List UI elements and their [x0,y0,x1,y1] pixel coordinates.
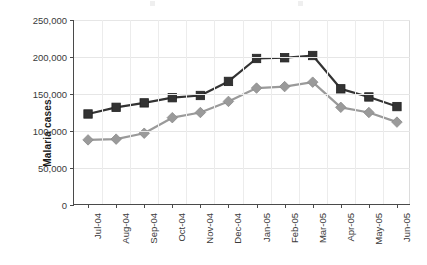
y-axis-tick [70,20,74,21]
gridline-vertical [214,20,215,204]
x-axis-tick [116,204,117,208]
data-point-marker [279,81,290,92]
y-axis-tick [70,94,74,95]
gridline-vertical [383,20,384,204]
x-axis-tick-label: Dec-04 [232,213,243,244]
x-axis-tick [257,204,258,208]
x-axis-tick-label: Apr-05 [345,213,356,242]
x-axis-tick-label: Jun-05 [401,213,412,242]
data-point-marker [251,83,262,94]
y-axis-tick [70,57,74,58]
x-axis-tick [369,204,370,208]
x-axis-tick-label: Aug-04 [120,213,131,244]
y-axis-tick-label: 250,000 [33,15,67,26]
y-axis-tick-label: 200,000 [33,52,67,63]
legend-marker-2 [298,1,303,6]
legend-marker-1 [150,1,155,6]
x-axis-tick-label: Mar-05 [317,213,328,243]
y-axis-tick [70,168,74,169]
x-axis-tick-label: Sep-04 [148,213,159,244]
x-axis-tick-label: Feb-05 [289,213,300,243]
x-axis-tick-label: Oct-04 [176,213,187,242]
data-point-marker [337,85,345,93]
gridline-vertical [130,20,131,204]
gridline-vertical [271,20,272,204]
data-point-marker [392,117,403,128]
y-axis-tick [70,205,74,206]
gridline-vertical [158,20,159,204]
x-axis-tick [285,204,286,208]
data-point-marker [309,51,317,59]
x-axis-tick-label: Jan-05 [261,213,272,242]
x-axis-tick [200,204,201,208]
x-axis-tick-label: May-05 [373,213,384,245]
data-point-marker [223,96,234,107]
x-axis-tick [228,204,229,208]
y-axis-tick-label: 100,000 [33,126,67,137]
gridline-vertical [299,20,300,204]
data-point-marker [83,135,94,146]
data-point-marker [393,102,401,110]
data-point-marker [167,112,178,123]
x-axis-tick [88,204,89,208]
gridline-vertical [355,20,356,204]
gridline-vertical [243,20,244,204]
gridline-vertical [102,20,103,204]
cropped-legend-strip [150,0,340,7]
x-axis-tick [172,204,173,208]
y-axis-tick-label: 0 [62,200,67,211]
x-axis-tick [313,204,314,208]
data-point-marker [140,99,148,107]
x-axis-tick [341,204,342,208]
data-point-marker [364,107,375,118]
data-point-marker [84,110,92,118]
gridline-vertical [327,20,328,204]
x-axis-tick-label: Nov-04 [204,213,215,244]
gridline-vertical [186,20,187,204]
x-axis-tick-label: Jul-04 [92,213,103,239]
x-axis-tick [397,204,398,208]
data-point-marker [111,134,122,145]
plot-area: 050,000100,000150,000200,000250,000Jul-0… [73,20,410,205]
data-point-marker [252,54,260,62]
data-point-marker [139,128,150,139]
data-point-marker [196,91,204,99]
data-point-marker [195,107,206,118]
y-axis-tick-label: 50,000 [38,163,67,174]
y-axis-tick-label: 150,000 [33,89,67,100]
data-point-marker [224,77,232,85]
line-chart: Malaria cases 050,000100,000150,000200,0… [0,0,427,265]
y-axis-tick [70,131,74,132]
data-point-marker [112,103,120,111]
x-axis-tick [144,204,145,208]
